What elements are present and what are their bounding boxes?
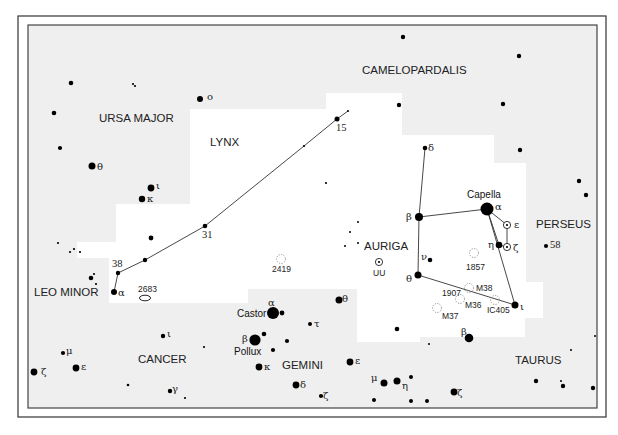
star-designation-label: κ (264, 361, 271, 372)
star-icon (73, 365, 80, 372)
star-icon (415, 213, 423, 221)
deep-sky-label: 1857 (466, 262, 485, 272)
star-icon (267, 307, 279, 319)
star-icon (357, 221, 359, 223)
star-designation-label: θ (97, 161, 103, 172)
star-icon (584, 193, 588, 197)
star-designation-label: α (268, 297, 275, 308)
star-designation-label: 15 (336, 122, 347, 133)
star-icon (161, 334, 165, 338)
star-icon (132, 83, 134, 85)
star-icon (203, 346, 205, 348)
variable-star-label: ζ (513, 242, 519, 253)
star-icon (594, 335, 596, 337)
star-designation-label: γ (172, 383, 178, 394)
star-designation-label: ζ (457, 387, 463, 398)
star-designation-label: α (495, 201, 502, 212)
constellation-label: GEMINI (282, 359, 323, 371)
star-designation-label: ι (520, 301, 524, 312)
star-designation-label: ι (156, 180, 160, 191)
star-designation-label: ε (81, 361, 86, 372)
constellation-label: LEO MINOR (34, 286, 99, 298)
deep-sky-label: IC405 (487, 305, 510, 315)
star-icon (347, 359, 354, 366)
deep-sky-label: 2683 (138, 284, 157, 294)
star-icon (127, 384, 130, 387)
named-star-label: Pollux (234, 346, 261, 357)
star-icon (357, 242, 359, 244)
star-icon (184, 397, 186, 399)
star-icon (95, 283, 97, 285)
galaxy-icon (140, 295, 151, 301)
star-designation-label: θ (406, 273, 412, 284)
star-designation-label: β (406, 211, 412, 222)
star-icon (577, 179, 581, 183)
star-icon (285, 339, 289, 343)
deep-sky-label: M37 (442, 311, 459, 321)
star-icon (116, 271, 120, 275)
star-icon (134, 85, 136, 87)
star-designation-label: β (242, 333, 248, 344)
star-icon (423, 146, 428, 151)
star-icon (591, 386, 595, 390)
variable-star-label: ε (514, 219, 519, 230)
star-icon (425, 399, 429, 403)
star-icon (394, 378, 401, 385)
star-icon (381, 380, 388, 387)
star-icon (203, 224, 208, 229)
constellation-label: CAMELOPARDALIS (362, 64, 467, 76)
star-icon (308, 322, 312, 326)
star-icon (428, 258, 433, 263)
star-designation-label: δ (428, 142, 434, 153)
deep-sky-label: 2419 (272, 264, 291, 274)
star-icon (262, 332, 267, 337)
star-designation-label: ι (167, 328, 171, 339)
star-designation-label: 58 (550, 239, 561, 250)
star-designation-label: θ (342, 293, 348, 304)
star-designation-label: η (402, 380, 408, 391)
star-icon (93, 273, 95, 275)
star-icon (518, 148, 522, 152)
star-icon (111, 289, 117, 295)
star-icon (57, 242, 59, 244)
star-icon (512, 302, 519, 309)
star-designation-label: ε (355, 355, 360, 366)
star-icon (31, 369, 38, 376)
star-icon (52, 111, 57, 116)
star-icon (481, 203, 494, 216)
star-icon (58, 146, 62, 150)
star-designation-label: 38 (112, 258, 123, 269)
star-icon (256, 364, 263, 371)
star-icon (271, 348, 275, 352)
variable-star-dot (506, 246, 508, 248)
constellation-label: LYNX (210, 136, 240, 148)
constellation-label: PERSEUS (536, 218, 591, 230)
star-icon (149, 236, 154, 241)
deep-sky-label: M38 (476, 283, 493, 293)
star-designation-label: 31 (202, 229, 213, 240)
named-star-label: Castor (237, 308, 267, 319)
star-icon (517, 54, 521, 58)
star-icon (69, 81, 74, 86)
star-designation-label: α (118, 287, 125, 298)
deep-sky-label: 1907 (442, 288, 461, 298)
star-icon (496, 242, 503, 249)
star-icon (69, 251, 71, 253)
star-icon (143, 258, 147, 262)
star-icon (534, 379, 538, 383)
star-icon (79, 251, 81, 253)
star-icon (401, 35, 405, 39)
star-designation-label: ζ (41, 366, 47, 377)
star-designation-label: ν (421, 251, 427, 262)
star-designation-label: ο (207, 91, 213, 102)
star-icon (139, 196, 145, 202)
deep-sky-label: M36 (465, 300, 482, 310)
star-icon (148, 185, 155, 192)
constellation-label: AURIGA (364, 240, 408, 252)
star-icon (347, 110, 349, 112)
star-designation-label: δ (300, 379, 306, 390)
star-designation-label: ζ (323, 390, 329, 401)
star-designation-label: μ (66, 345, 73, 356)
star-icon (249, 334, 260, 345)
star-icon (280, 311, 285, 316)
